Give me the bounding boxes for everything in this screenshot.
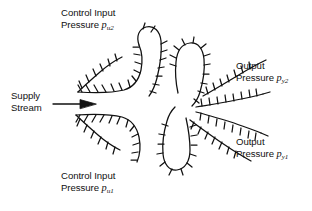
label-supply-stream-line1: Supply	[11, 90, 42, 102]
label-supply-stream: Supply Stream	[11, 90, 42, 114]
amplifier-geometry	[0, 0, 312, 211]
label-control-input-1-line1: Control Input	[61, 170, 115, 182]
fluidic-amplifier-figure: Control Input Pressure pu2 Control Input…	[0, 0, 312, 211]
label-control-input-1-subscript: u1	[107, 187, 114, 195]
wall-control-1-left	[76, 115, 120, 154]
label-control-input-1-prefix: Pressure	[61, 182, 102, 193]
label-output-1-line2: Pressure py1	[236, 148, 288, 163]
label-supply-stream-line2: Stream	[11, 102, 42, 114]
label-control-input-2-line1: Control Input	[61, 7, 115, 19]
label-output-1: Output Pressure py1	[236, 136, 288, 163]
label-output-2-line1: Output	[236, 60, 288, 72]
label-control-input-1-line2: Pressure pu1	[61, 182, 115, 197]
label-control-input-2: Control Input Pressure pu2	[61, 7, 115, 34]
label-output-2-prefix: Pressure	[236, 72, 277, 83]
wall-control-2-left	[78, 54, 122, 92]
label-output-1-subscript: y1	[282, 153, 289, 161]
lobe-lower-center	[157, 107, 197, 175]
supply-arrow-icon	[53, 100, 96, 109]
label-output-2-line2: Pressure py2	[236, 72, 288, 87]
label-output-1-line1: Output	[236, 136, 288, 148]
label-output-2-subscript: y2	[282, 77, 289, 85]
label-control-input-2-line2: Pressure pu2	[61, 19, 115, 34]
label-control-input-2-subscript: u2	[107, 24, 114, 32]
wall-upper-left	[78, 45, 142, 93]
label-control-input-2-prefix: Pressure	[61, 19, 102, 30]
label-control-input-1: Control Input Pressure pu1	[61, 170, 115, 197]
label-output-1-prefix: Pressure	[236, 148, 277, 159]
wall-lower-left	[76, 114, 140, 162]
label-output-2: Output Pressure py2	[236, 60, 288, 87]
